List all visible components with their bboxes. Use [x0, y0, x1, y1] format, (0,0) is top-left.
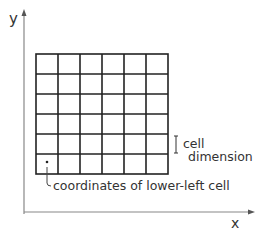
cell-dimension-label-line2: dimension	[188, 149, 253, 164]
cell-dimension-marker-icon	[174, 136, 178, 153]
lower-left-point-icon	[46, 161, 49, 164]
lower-left-coordinates-label: coordinates of lower-left cell	[53, 178, 230, 193]
leader-line	[47, 167, 51, 186]
x-axis-arrow-icon	[248, 210, 255, 215]
raster-grid-diagram	[0, 0, 268, 236]
cell-grid	[36, 54, 168, 174]
y-axis-arrow-icon	[22, 9, 27, 16]
y-axis-label: y	[9, 10, 18, 28]
x-axis-label: x	[231, 215, 239, 231]
